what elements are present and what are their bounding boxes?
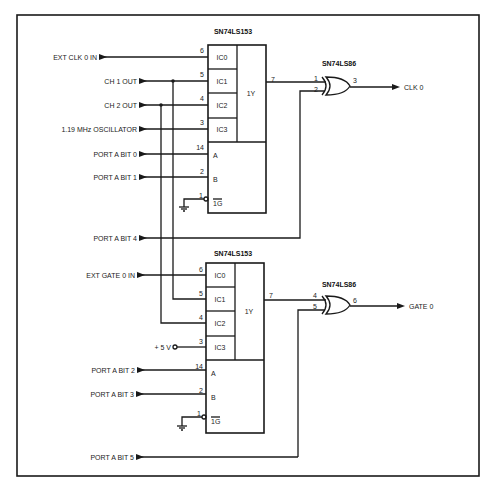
input-port-a-bit4: PORT A BIT 4 bbox=[93, 235, 176, 242]
pin-number: 5 bbox=[200, 71, 204, 78]
svg-text:1.19 MHz OSCILLATOR: 1.19 MHz OSCILLATOR bbox=[61, 126, 137, 133]
lower-mux-ic2: IC2 bbox=[215, 320, 226, 327]
upper-mux-a: A bbox=[213, 152, 218, 159]
upper-mux-part-label: SN74LS153 bbox=[214, 28, 252, 35]
upper-mux-b: B bbox=[213, 176, 218, 183]
clk0-output-label: CLK 0 bbox=[404, 84, 424, 91]
pin-number: 14 bbox=[195, 363, 203, 370]
lower-mux-ic0: IC0 bbox=[215, 272, 226, 279]
pin-number: 14 bbox=[196, 144, 204, 151]
lower-mux-b: B bbox=[211, 394, 216, 401]
upper-mux-ic2: IC2 bbox=[217, 102, 228, 109]
pin-number: 3 bbox=[200, 119, 204, 126]
ground-icon bbox=[179, 207, 189, 211]
upper-mux-ic0: IC0 bbox=[217, 54, 228, 61]
pin-number: 1 bbox=[197, 410, 201, 417]
pin-number: 1 bbox=[199, 192, 203, 199]
lower-mux-g: 1G bbox=[211, 418, 220, 425]
input-port-a-bit0: PORT A BIT 0 bbox=[93, 151, 208, 158]
input-port-a-bit3: PORT A BIT 3 bbox=[90, 391, 206, 398]
lower-xor-gate bbox=[322, 296, 350, 314]
input-ch1: CH 1 OUT bbox=[104, 78, 208, 85]
pin-number: 7 bbox=[269, 292, 273, 299]
pin-number: 4 bbox=[200, 95, 204, 102]
gate0-output-label: GATE 0 bbox=[409, 303, 433, 310]
svg-text:PORT A BIT 0: PORT A BIT 0 bbox=[93, 151, 137, 158]
input-ext-gate: EXT GATE 0 IN bbox=[86, 272, 206, 279]
input-ch2: CH 2 OUT bbox=[104, 102, 208, 109]
pin-number: 5 bbox=[313, 303, 317, 310]
ground-icon bbox=[177, 426, 187, 430]
lower-mux-part-label: SN74LS153 bbox=[214, 250, 252, 257]
upper-xor-gate bbox=[322, 77, 350, 95]
pin-number: 3 bbox=[199, 338, 203, 345]
arrow-icon bbox=[392, 84, 400, 90]
pin-number: 6 bbox=[199, 266, 203, 273]
svg-text:PORT A BIT 2: PORT A BIT 2 bbox=[91, 367, 135, 374]
svg-text:PORT A BIT 5: PORT A BIT 5 bbox=[90, 454, 134, 461]
pin-number: 4 bbox=[313, 292, 317, 299]
input-port-a-bit1: PORT A BIT 1 bbox=[93, 174, 208, 181]
pin-number: 6 bbox=[353, 297, 357, 304]
input-port-a-bit2: PORT A BIT 2 bbox=[91, 367, 206, 374]
svg-text:PORT A BIT 4: PORT A BIT 4 bbox=[93, 235, 137, 242]
pin-number: 2 bbox=[200, 168, 204, 175]
input-port-a-bit5: PORT A BIT 5 bbox=[90, 454, 298, 461]
ground-wire bbox=[184, 199, 204, 207]
upper-mux-1y: 1Y bbox=[247, 90, 256, 97]
pin-number: 1 bbox=[314, 75, 318, 82]
svg-text:PORT A BIT 1: PORT A BIT 1 bbox=[93, 174, 137, 181]
schematic: SN74LS153 IC0 IC1 IC2 IC3 1Y A B 1G 6 5 … bbox=[0, 0, 496, 490]
ground-wire bbox=[182, 417, 202, 426]
upper-mux-ic1: IC1 bbox=[217, 78, 228, 85]
pin-number: 2 bbox=[199, 387, 203, 394]
svg-text:+ 5 V: + 5 V bbox=[154, 344, 171, 351]
svg-text:EXT CLK 0 IN: EXT CLK 0 IN bbox=[53, 54, 97, 61]
lower-mux-a: A bbox=[211, 370, 216, 377]
input-vcc: + 5 V bbox=[154, 344, 206, 351]
pin-number: 5 bbox=[199, 290, 203, 297]
svg-text:CH 1 OUT: CH 1 OUT bbox=[104, 78, 137, 85]
pin-number: 4 bbox=[199, 314, 203, 321]
svg-text:CH 2 OUT: CH 2 OUT bbox=[104, 102, 137, 109]
lower-mux-ic1: IC1 bbox=[215, 296, 226, 303]
vcc-terminal-icon bbox=[173, 345, 177, 349]
arrow-icon bbox=[397, 303, 405, 309]
lower-mux-1y: 1Y bbox=[245, 308, 254, 315]
upper-mux-g: 1G bbox=[213, 200, 222, 207]
pin-number: 6 bbox=[200, 47, 204, 54]
svg-text:EXT GATE 0 IN: EXT GATE 0 IN bbox=[86, 272, 135, 279]
upper-xor-part-label: SN74LS86 bbox=[322, 60, 356, 67]
pin-number: 2 bbox=[314, 86, 318, 93]
lower-xor-part-label: SN74LS86 bbox=[322, 281, 356, 288]
svg-text:PORT A BIT 3: PORT A BIT 3 bbox=[90, 391, 134, 398]
lower-mux-ic3: IC3 bbox=[215, 344, 226, 351]
input-oscillator: 1.19 MHz OSCILLATOR bbox=[61, 126, 208, 133]
input-ext-clk: EXT CLK 0 IN bbox=[53, 54, 208, 61]
pin-number: 3 bbox=[353, 77, 357, 84]
upper-mux-ic3: IC3 bbox=[217, 126, 228, 133]
